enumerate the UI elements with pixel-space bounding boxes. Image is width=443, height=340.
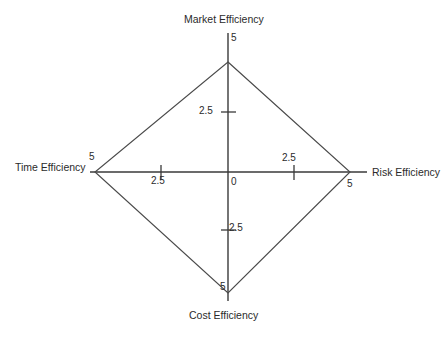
radar-chart: Market Efficiency Risk Efficiency Cost E… [0, 0, 443, 340]
axis-origin-label: 0 [231, 177, 237, 187]
axis-title-cost-efficiency: Cost Efficiency [189, 310, 258, 321]
axis-max-label-cost: 5 [220, 282, 226, 292]
axis-tick-label-cost-2point5: 2.5 [229, 223, 243, 233]
axis-title-risk-efficiency: Risk Efficiency [372, 167, 440, 178]
axis-tick-label-risk-2point5: 2.5 [282, 153, 296, 163]
axis-max-label-risk: 5 [347, 179, 353, 189]
axis-title-market-efficiency: Market Efficiency [184, 14, 264, 25]
axis-tick-label-time-2point5: 2.5 [151, 176, 165, 186]
axis-tick-label-market-2point5: 2.5 [199, 106, 213, 116]
data-polygon [95, 62, 350, 293]
axis-max-label-market: 5 [231, 33, 237, 43]
axis-max-label-time: 5 [89, 152, 95, 162]
axis-title-time-efficiency: Time Efficiency [15, 162, 86, 173]
